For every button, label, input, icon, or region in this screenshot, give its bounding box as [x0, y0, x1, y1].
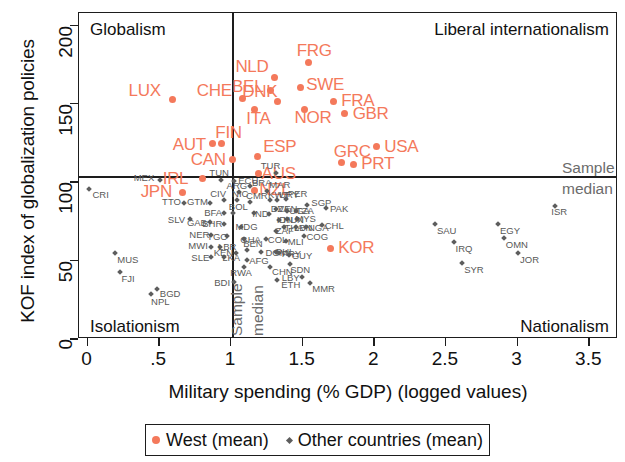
data-point-label: CHL: [325, 221, 344, 231]
sample-median-label-vertical-2: median: [249, 285, 267, 336]
legend-label-west: West (mean): [166, 430, 269, 451]
data-point-label: IRQ: [456, 244, 473, 254]
data-point-label: COG: [306, 232, 328, 242]
data-point-label: KOR: [338, 239, 374, 256]
data-point-label: PER: [288, 189, 308, 199]
quadrant-label-globalism: Globalism: [90, 20, 166, 40]
data-point: [350, 161, 357, 168]
data-point-label: BFA: [204, 208, 222, 218]
data-point: [373, 143, 380, 150]
data-point-label: MDG: [235, 222, 257, 232]
data-point-label: SLV: [168, 215, 185, 225]
data-point-label: KEN: [214, 248, 234, 258]
data-point-label: BHR: [202, 219, 222, 229]
data-point-label: MWI: [188, 241, 208, 251]
y-tick-label: 100: [55, 182, 77, 248]
quadrant-label-nationalism: Nationalism: [520, 317, 609, 337]
data-point-label: CAN: [191, 151, 226, 168]
data-point-label: BDI: [214, 278, 230, 288]
data-point-label: PRT: [361, 155, 394, 172]
x-tick: [230, 338, 232, 346]
data-point: [327, 245, 334, 252]
data-point-label: MLI: [288, 237, 304, 247]
data-point-label: NOR: [294, 109, 331, 126]
y-tick-label: 150: [55, 104, 77, 170]
data-point-label: LBY: [282, 273, 300, 283]
data-point-label: CIV: [210, 189, 226, 199]
y-tick-label: 0: [55, 339, 77, 405]
x-tick-label: 2: [353, 348, 393, 370]
diamond-marker-icon: [286, 436, 293, 443]
chart-canvas: KOF index of globalization policies Mili…: [0, 0, 625, 462]
x-tick: [373, 338, 375, 346]
x-tick-label: .5: [138, 348, 178, 370]
data-point-label: LUX: [129, 82, 161, 99]
quadrant-label-liberal-internationalism: Liberal internationalism: [434, 20, 609, 40]
data-point: [199, 175, 206, 182]
data-point-label: SWE: [306, 76, 344, 93]
data-point-label: USA: [384, 138, 418, 155]
data-point-label: ESP: [263, 138, 296, 155]
data-point: [254, 153, 261, 160]
x-tick: [158, 338, 160, 346]
x-tick-label: 1.5: [282, 348, 322, 370]
x-tick-label: 1: [210, 348, 250, 370]
data-point-label: CRI: [92, 190, 108, 200]
data-point-label: SGP: [311, 198, 331, 208]
data-point-label: JOR: [520, 255, 539, 265]
data-point-label: FRG: [297, 42, 332, 59]
data-point-label: MUS: [117, 255, 138, 265]
data-point-label: GUY: [292, 251, 313, 261]
data-point-label: ISR: [551, 207, 567, 217]
data-point-label: ITA: [246, 110, 270, 127]
x-tick: [517, 338, 519, 346]
sample-median-label-vertical-1: Sample: [228, 283, 246, 336]
x-tick-label: 3.5: [568, 348, 608, 370]
circle-marker-icon: [152, 436, 160, 444]
data-point: [330, 98, 337, 105]
x-tick: [588, 338, 590, 346]
quadrant-label-isolationism: Isolationism: [90, 317, 180, 337]
x-tick: [302, 338, 304, 346]
data-point-label: EGY: [500, 226, 520, 236]
y-tick-label: 50: [55, 261, 77, 327]
data-point-label: MMR: [312, 284, 335, 294]
sample-median-label-horizontal-1: Sample: [562, 159, 615, 177]
x-tick-label: 3: [497, 348, 537, 370]
data-point-label: SYR: [464, 265, 484, 275]
data-point-label: NPL: [151, 297, 169, 307]
data-point-label: BEN: [243, 239, 263, 249]
data-point-label: TUN: [209, 168, 229, 178]
legend-item-west[interactable]: West (mean): [152, 430, 269, 451]
data-point-label: DNK: [242, 83, 277, 100]
data-point-label: FIN: [215, 124, 241, 141]
data-point-label: OMN: [506, 240, 528, 250]
x-tick: [87, 338, 89, 346]
data-point-label: CHE: [197, 82, 232, 99]
data-point-label: SAU: [437, 226, 457, 236]
data-point-label: NLD: [235, 58, 268, 75]
legend-label-other: Other countries (mean): [298, 430, 483, 451]
data-point-label: RWA: [230, 268, 252, 278]
data-point-label: BOL: [229, 202, 248, 212]
data-point-label: PAK: [330, 204, 348, 214]
data-point-label: GTM: [187, 197, 208, 207]
y-tick-label: 200: [55, 26, 77, 92]
sample-median-label-horizontal-2: median: [562, 180, 613, 198]
data-point-label: MEX: [134, 173, 155, 183]
x-tick-label: 2.5: [425, 348, 465, 370]
x-axis-title: Military spending (% GDP) (logged values…: [78, 381, 618, 403]
x-tick: [445, 338, 447, 346]
data-point-label: TTO: [162, 197, 181, 207]
data-point-label: ZAF: [276, 226, 294, 236]
data-point: [297, 84, 304, 91]
data-point: [179, 189, 186, 196]
data-point-label: TUR: [261, 161, 281, 171]
chart-legend: West (mean) Other countries (mean): [145, 424, 490, 456]
y-axis-title: KOF index of globalization policies: [17, 16, 39, 346]
legend-item-other[interactable]: Other countries (mean): [287, 430, 483, 451]
data-point-label: GBR: [353, 105, 389, 122]
data-point-label: FJI: [122, 274, 135, 284]
data-point-label: SLE: [191, 253, 209, 263]
